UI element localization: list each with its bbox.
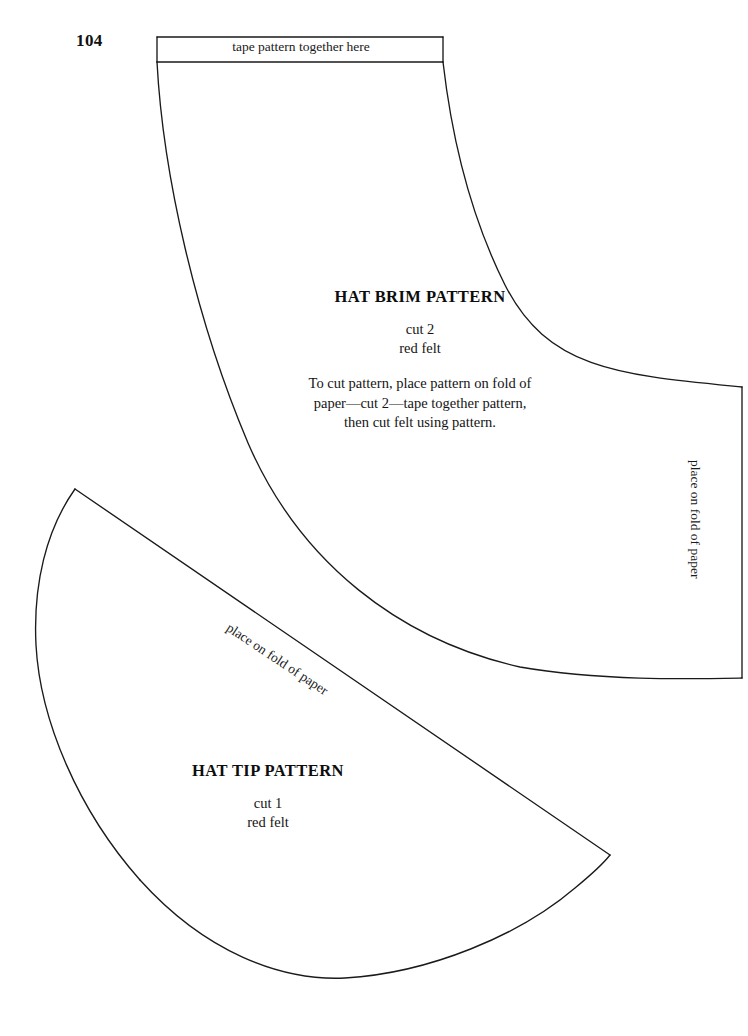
hat-tip-text-block: HAT TIP PATTERN cut 1 red felt [168,762,368,831]
tape-pattern-together-label: tape pattern together here [160,39,442,55]
brim-place-on-fold-label: place on fold of paper [687,460,703,670]
hat-brim-text-block: HAT BRIM PATTERN cut 2 red felt To cut p… [300,288,540,433]
hat-tip-material: red felt [168,813,368,832]
tip-bottom-arc [140,855,610,978]
hat-brim-title: HAT BRIM PATTERN [300,288,540,306]
hat-brim-instructions: To cut pattern, place pattern on fold of… [300,374,540,433]
hat-tip-outline [36,489,610,978]
page-number: 104 [76,31,103,51]
pattern-drawing [0,0,748,1036]
hat-brim-material: red felt [300,339,540,358]
pattern-page: 104 tape pattern together here HAT BRIM … [0,0,748,1036]
tip-left-curve [36,489,140,880]
hat-tip-title: HAT TIP PATTERN [168,762,368,780]
hat-tip-cut-count: cut 1 [168,794,368,813]
hat-brim-cut-count: cut 2 [300,320,540,339]
